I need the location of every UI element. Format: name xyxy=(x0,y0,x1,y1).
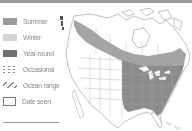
legend-label: Occasional xyxy=(23,65,54,74)
legend-label: Date seen xyxy=(22,97,51,106)
year-round-swatch-icon xyxy=(3,50,17,57)
map-legend: Summer Winter Year-round Occasional Ocea… xyxy=(3,13,61,109)
occasional-dotted-swatch-icon xyxy=(3,66,17,73)
legend-label: Ocean range xyxy=(23,81,60,90)
winter-swatch-icon xyxy=(3,34,17,41)
ocean-range-hatched-swatch-icon xyxy=(3,82,17,88)
north-america-map-icon xyxy=(60,8,192,131)
range-map xyxy=(60,8,192,131)
legend-label: Summer xyxy=(23,17,47,26)
legend-item-summer: Summer xyxy=(3,13,61,29)
legend-label: Winter xyxy=(23,33,41,42)
summer-swatch-icon xyxy=(3,18,17,25)
legend-bottom-divider xyxy=(3,122,59,123)
legend-item-year-round: Year-round xyxy=(3,45,61,61)
legend-item-ocean-range: Ocean range xyxy=(3,77,61,93)
date-seen-box-icon xyxy=(3,97,16,106)
legend-item-date-seen: Date seen xyxy=(3,93,61,109)
top-divider xyxy=(0,0,192,3)
legend-label: Year-round xyxy=(23,49,54,58)
legend-item-winter: Winter xyxy=(3,29,61,45)
legend-item-occasional: Occasional xyxy=(3,61,61,77)
